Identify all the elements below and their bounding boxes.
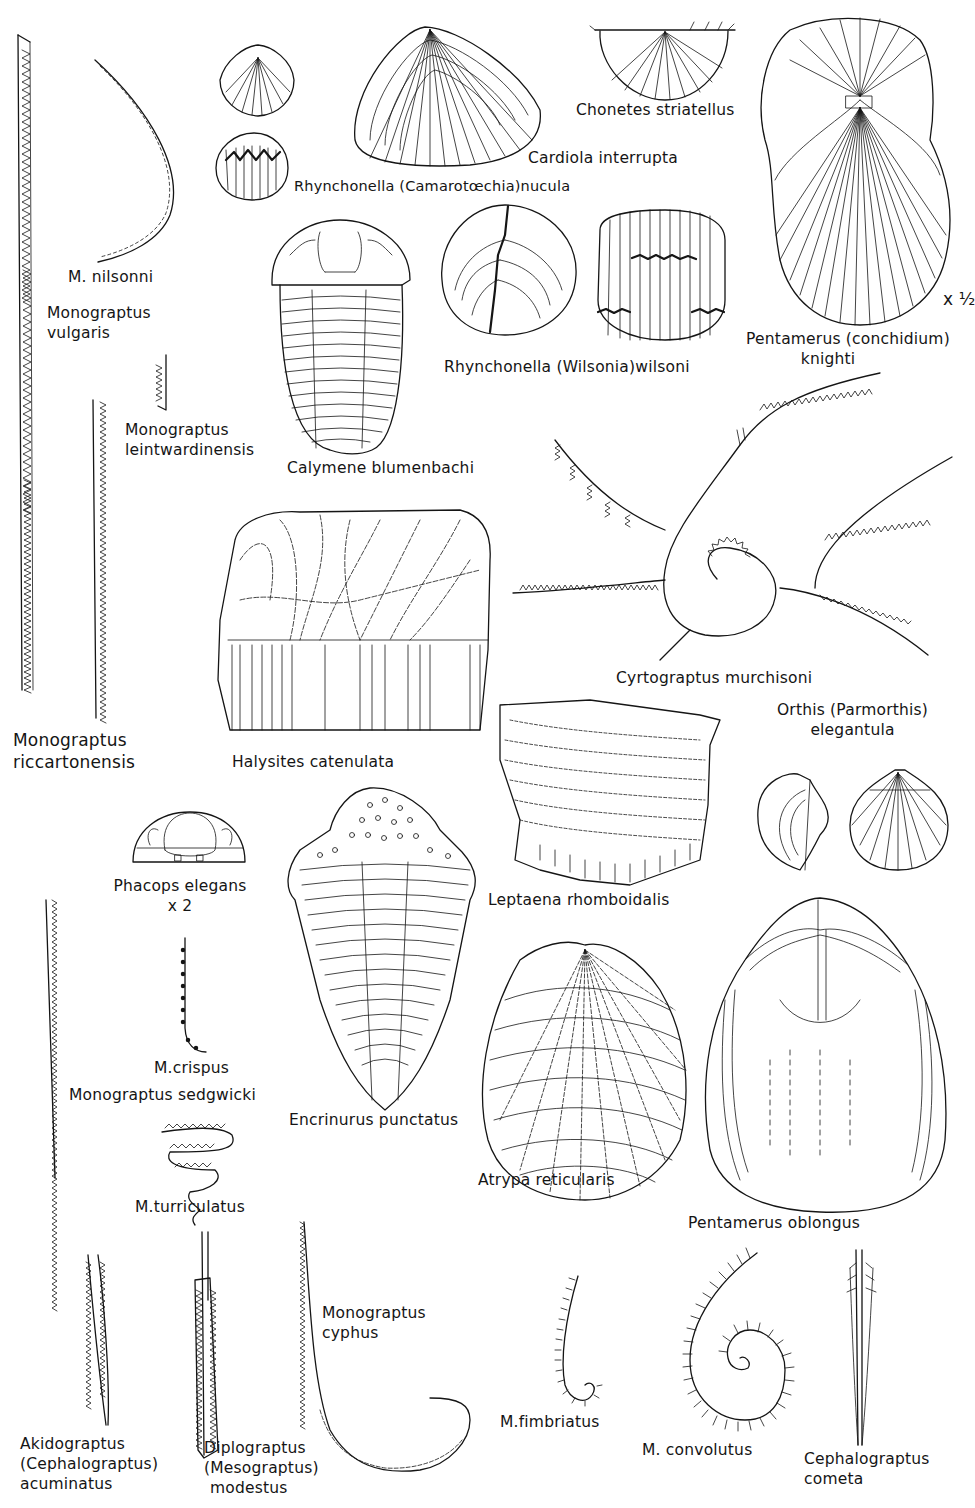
label-line: cometa xyxy=(804,1469,930,1489)
rhynchonella-nucula-drawing xyxy=(216,45,294,200)
m-crispus-drawing xyxy=(181,938,206,1052)
label-pentamerus-oblongus: Pentamerus oblongus xyxy=(688,1213,860,1233)
label-line: Akidograptus xyxy=(20,1434,158,1454)
label-halysites-catenulata: Halysites catenulata xyxy=(232,752,394,772)
m-convolutus-drawing xyxy=(683,1248,794,1431)
label-cyrtograptus-murchisoni: Cyrtograptus murchisoni xyxy=(616,668,812,688)
label-line: Orthis (Parmorthis) xyxy=(745,700,960,720)
pentamerus-knighti-drawing xyxy=(761,18,950,325)
leptaena-rhomboidalis-drawing xyxy=(500,700,720,885)
atrypa-reticularis-drawing xyxy=(483,942,686,1200)
monograptus-vulgaris-drawing xyxy=(18,35,33,693)
label-monograptus-leintwardinensis: Monograptus leintwardinensis xyxy=(125,420,254,460)
label-monograptus-vulgaris: Monograptus vulgaris xyxy=(47,303,151,343)
label-atrypa-reticularis: Atrypa reticularis xyxy=(478,1170,615,1190)
halysites-catenulata-drawing xyxy=(218,510,490,730)
cyrtograptus-murchisoni-drawing xyxy=(513,373,952,660)
label-line: cyphus xyxy=(322,1323,426,1343)
m-nilsonni-drawing xyxy=(95,60,173,262)
monograptus-sedgwicki-drawing xyxy=(46,900,57,1311)
label-line: Pentamerus (conchidium) xyxy=(733,329,963,349)
label-orthis-elegantula: Orthis (Parmorthis) elegantula xyxy=(745,700,960,740)
scale-note-half: x ½ xyxy=(943,288,975,310)
label-line: Monograptus xyxy=(322,1303,426,1323)
label-line: Monograptus xyxy=(13,729,135,751)
label-monograptus-cyphus: Monograptus cyphus xyxy=(322,1303,426,1343)
orthis-elegantula-drawing xyxy=(758,770,948,870)
label-line: modestus xyxy=(204,1478,319,1498)
chonetes-striatellus-drawing xyxy=(590,22,735,100)
label-monograptus-sedgwicki: Monograptus sedgwicki xyxy=(69,1085,256,1105)
label-m-turriculatus: M.turriculatus xyxy=(135,1197,245,1217)
label-line: (Mesograptus) xyxy=(204,1458,319,1478)
label-line: Cephalograptus xyxy=(804,1449,930,1469)
label-line: Diplograptus xyxy=(204,1438,319,1458)
label-line: leintwardinensis xyxy=(125,440,254,460)
monograptus-riccartonensis-drawing xyxy=(93,400,106,723)
encrinurus-punctatus-drawing xyxy=(288,788,475,1110)
monograptus-cyphus-drawing xyxy=(300,1222,470,1471)
label-cephalograptus-cometa: Cephalograptus cometa xyxy=(804,1449,930,1489)
label-line: riccartonensis xyxy=(13,751,135,773)
label-phacops-elegans: Phacops elegans x 2 xyxy=(95,876,265,916)
label-akidograptus-acuminatus: Akidograptus (Cephalograptus) acuminatus xyxy=(20,1434,158,1494)
label-m-convolutus: M. convolutus xyxy=(642,1440,752,1460)
rhynchonella-wilsoni-drawing xyxy=(442,205,725,340)
m-fimbriatus-drawing xyxy=(555,1276,602,1406)
label-m-fimbriatus: M.fimbriatus xyxy=(500,1412,600,1432)
label-calymene-blumenbachi: Calymene blumenbachi xyxy=(287,458,474,478)
label-rhynchonella-wilsoni: Rhynchonella (Wilsonia)wilsoni xyxy=(444,357,690,377)
pentamerus-oblongus-drawing xyxy=(705,898,945,1212)
label-diplograptus-modestus: Diplograptus (Mesograptus) modestus xyxy=(204,1438,319,1498)
label-line: knighti xyxy=(733,349,963,369)
fossil-drawings xyxy=(0,0,975,1508)
label-line: elegantula xyxy=(745,720,960,740)
label-monograptus-riccartonensis: Monograptus riccartonensis xyxy=(13,729,135,773)
fossil-plate: M. nilsonni Monograptus vulgaris Monogra… xyxy=(0,0,975,1508)
akidograptus-acuminatus-drawing xyxy=(86,1255,108,1425)
monograptus-leintwardinensis-drawing xyxy=(156,355,166,410)
label-cardiola-interrupta: Cardiola interrupta xyxy=(528,148,678,168)
label-line: Monograptus xyxy=(125,420,254,440)
cephalograptus-cometa-drawing xyxy=(847,1250,876,1445)
label-leptaena-rhomboidalis: Leptaena rhomboidalis xyxy=(488,890,669,910)
phacops-elegans-drawing xyxy=(133,812,245,862)
label-m-nilsonni: M. nilsonni xyxy=(68,267,153,287)
calymene-blumenbachi-drawing xyxy=(272,220,410,454)
cardiola-interrupta-drawing xyxy=(355,27,541,166)
label-line: acuminatus xyxy=(20,1474,158,1494)
label-line: x 2 xyxy=(95,896,265,916)
diplograptus-modestus-drawing xyxy=(195,1232,218,1458)
label-line: Phacops elegans xyxy=(95,876,265,896)
label-rhynchonella-nucula: Rhynchonella (Camarotœchia)nucula xyxy=(294,176,570,196)
label-pentamerus-knighti: Pentamerus (conchidium) knighti xyxy=(733,329,963,369)
label-encrinurus-punctatus: Encrinurus punctatus xyxy=(289,1110,458,1130)
label-m-crispus: M.crispus xyxy=(154,1058,229,1078)
label-line: Monograptus xyxy=(47,303,151,323)
label-line: (Cephalograptus) xyxy=(20,1454,158,1474)
label-chonetes-striatellus: Chonetes striatellus xyxy=(576,100,735,120)
label-line: vulgaris xyxy=(47,323,151,343)
